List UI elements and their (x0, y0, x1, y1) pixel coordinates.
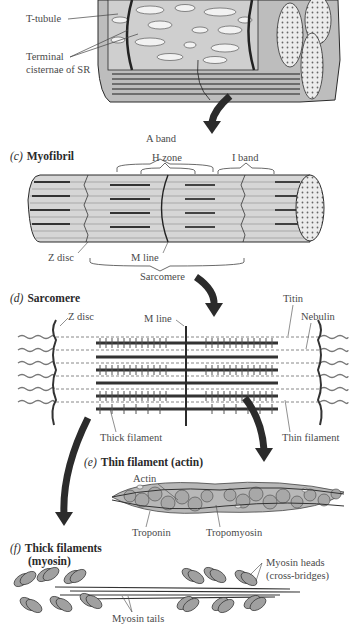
panel-title-thick-filaments-line1: Thick filaments (25, 542, 102, 554)
label-myosin-heads-line2: (cross-bridges) (266, 571, 329, 582)
label-terminal-cisternae-line1: Terminal (26, 52, 64, 63)
heading-thick-filaments-line2: (myosin) (28, 555, 71, 568)
muscle-structure-diagram (0, 0, 352, 626)
arrow-head-icon (205, 303, 223, 317)
heading-myofibril: (c)Myofibril (10, 150, 74, 163)
thin-filament-actin (112, 482, 344, 527)
label-terminal-cisternae-line2: cisternae of SR (26, 65, 90, 76)
label-troponin: Troponin (132, 528, 171, 539)
label-thin-filament: Thin filament (282, 433, 339, 444)
label-tropomyosin: Tropomyosin (206, 528, 262, 539)
panel-title-sarcomere: Sarcomere (27, 292, 80, 304)
label-myosin-tails: Myosin tails (112, 614, 164, 625)
sarcomere-bracket (90, 258, 244, 271)
arrow-head-icon (55, 512, 73, 526)
label-z-disc-c: Z disc (48, 253, 74, 264)
panel-title-thick-filaments-line2: (myosin) (28, 555, 71, 567)
label-t-tubule: T-tubule (26, 14, 61, 25)
panel-letter-f: (f) (10, 542, 21, 554)
label-thick-filament: Thick filament (100, 433, 162, 444)
label-nebulin: Nebulin (301, 312, 335, 323)
panel-letter-e: (e) (84, 456, 97, 468)
panel-title-thin-filament: Thin filament (actin) (101, 456, 203, 468)
arrow-head-icon (203, 121, 221, 134)
label-sarcomere: Sarcomere (140, 272, 185, 283)
arrow-icon (245, 398, 264, 450)
label-myosin-heads-line1: Myosin heads (266, 558, 325, 569)
arrow-icon (196, 277, 214, 305)
panel-letter-c: (c) (10, 150, 23, 162)
label-h-zone: H zone (152, 153, 182, 164)
label-a-band: A band (146, 134, 176, 145)
label-actin: Actin (133, 474, 156, 485)
panel-letter-d: (d) (10, 292, 23, 304)
h-zone-bracket (141, 163, 195, 174)
panel-title-myofibril: Myofibril (27, 150, 74, 162)
label-m-line-d: M line (144, 314, 172, 325)
sarcomere-diagram (18, 305, 348, 432)
heading-sarcomere: (d)Sarcomere (10, 292, 80, 305)
thick-filament-myosin (12, 563, 300, 615)
label-m-line-c: M line (131, 253, 159, 264)
heading-thin-filament: (e)Thin filament (actin) (84, 456, 203, 469)
arrow-head-icon (255, 448, 273, 462)
label-z-disc-d: Z disc (68, 312, 94, 323)
label-titin: Titin (283, 294, 303, 305)
i-band-bracket (218, 163, 274, 174)
muscle-fiber-cutaway (68, 0, 340, 102)
label-i-band: I band (232, 153, 259, 164)
heading-thick-filaments: (f)Thick filaments (10, 542, 102, 555)
